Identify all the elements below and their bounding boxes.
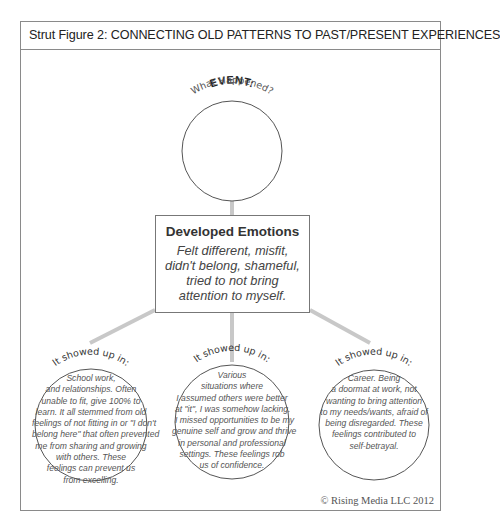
text-line: from excelling. [35, 475, 147, 486]
text-line: to my needs/wants, afraid of [318, 407, 430, 418]
text-line: feelings of not fitting in or "I don't [32, 418, 150, 429]
developed-emotions-title: Developed Emotions [156, 224, 309, 239]
developed-emotions-box: Developed Emotions Felt different, misfi… [155, 215, 310, 313]
connector-box-to-right [310, 310, 370, 343]
showed-up-text-1: School work, and relationships. Often un… [35, 373, 147, 486]
text-line: I missed opportunities to be my [175, 415, 289, 426]
text-line: I assumed others were better [175, 393, 289, 404]
text-line: settings. These feelings rob [175, 449, 289, 460]
emotions-line: didn't belong, shameful, [156, 258, 309, 273]
text-line: and relationships. Often [35, 384, 147, 395]
text-line: a doormat at work, not [318, 384, 430, 395]
event-circle [182, 101, 282, 201]
showed-up-label-1: It showed up in: [50, 346, 132, 368]
text-line: Various [175, 370, 289, 381]
text-line: me from sharing and growing [35, 441, 147, 452]
copyright-notice: © Rising Media LLC 2012 [320, 495, 434, 506]
text-line: with others. These [35, 452, 147, 463]
text-line: situations where [175, 381, 289, 392]
text-line: genuine self and grow and thrive [172, 426, 292, 437]
emotions-line: tried to not bring [156, 273, 309, 288]
developed-emotions-body: Felt different, misfit, didn't belong, s… [156, 243, 309, 303]
emotions-line: attention to myself. [156, 288, 309, 303]
text-line: School work, [35, 373, 147, 384]
showed-up-label-3: It showed up in: [333, 346, 415, 368]
text-line: unable to fit, give 100% to [35, 396, 147, 407]
text-line: wanting to bring attention [318, 396, 430, 407]
text-line: belong here" that often prevented [32, 429, 150, 440]
text-line: being disregarded. These [318, 418, 430, 429]
text-line: Career. Being [318, 373, 430, 384]
showed-up-text-3: Career. Being a doormat at work, not wan… [318, 373, 430, 452]
showed-up-text-2: Various situations where I assumed other… [175, 370, 289, 472]
text-line: us of confidence. [175, 460, 289, 471]
emotions-line: Felt different, misfit, [156, 243, 309, 258]
text-line: in personal and professional [175, 438, 289, 449]
connector-box-to-left [90, 310, 155, 343]
text-line: learn. It all stemmed from old [35, 407, 147, 418]
text-line: at "it", I was somehow lacking. [175, 404, 289, 415]
text-line: feelings can prevent us [35, 463, 147, 474]
text-line: self-betrayal. [318, 441, 430, 452]
text-line: feelings contributed to [318, 429, 430, 440]
